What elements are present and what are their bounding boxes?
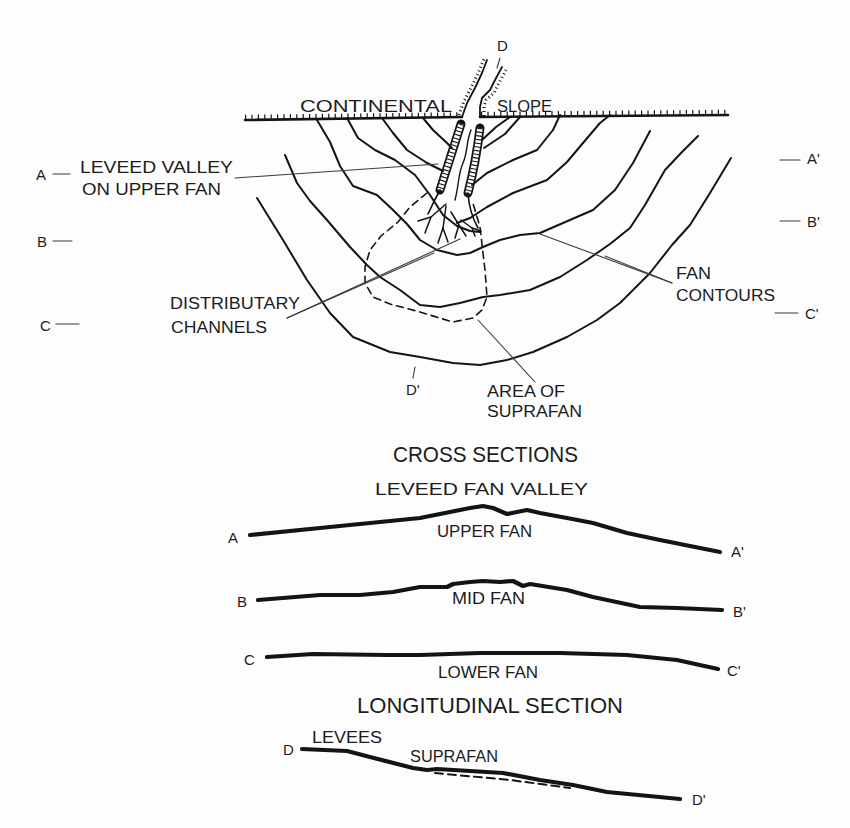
lower-fan-label: LOWER FAN [438,664,538,681]
marker-b-prime: B' [807,213,820,230]
marker-a-prime: A' [807,150,820,167]
profile-a-start: A [228,529,238,546]
leveed-valley-label-line2: ON UPPER FAN [82,181,221,198]
levees-label: LEVEES [312,729,382,746]
channel-label-d: D [497,37,508,54]
marker-b: B [37,233,47,250]
fan-contours [257,115,731,365]
cross-sections: CROSS SECTIONS LEVEED FAN VALLEY A A' UP… [228,442,746,681]
profile-b-end: B' [733,603,746,620]
slope-label-slope: SLOPE [497,98,552,115]
upper-fan-label: UPPER FAN [437,523,532,540]
cross-sections-title: CROSS SECTIONS [393,442,578,467]
mid-fan-label: MID FAN [452,590,525,607]
distributary-label-line2: CHANNELS [171,319,267,336]
suprafan-label: SUPRAFAN [410,748,498,765]
contour-innermost [317,120,650,255]
suprafan-area-label-line1: AREA OF [487,383,565,400]
profile-b-start: B [237,593,247,610]
marker-c-prime: C' [805,305,819,322]
slope-label-continental: CONTINENTAL [300,98,452,115]
plan-view: D CONTINENTAL SLOPE A B C A' B' C' LEVEE… [36,37,820,420]
fan-contours-label-line1: FAN [676,265,711,282]
marker-a: A [36,166,46,183]
longitudinal-section-title: LONGITUDINAL SECTION [357,693,623,718]
profile-c-end: C' [727,662,741,679]
suprafan-area-label-line2: SUPRAFAN [487,403,582,420]
leveed-fan-valley-label: LEVEED FAN VALLEY [375,481,588,498]
leveed-valley-label-line1: LEVEED VALLEY [80,159,233,176]
suprafan-boundary [365,193,487,322]
profile-d-start: D [283,741,294,758]
profile-d-end: D' [692,791,706,808]
distributary-channels [418,204,481,243]
marker-c: C [40,317,51,334]
section-d-tick [497,58,500,68]
contour-outermost [257,158,731,365]
fan-contours-label-line2: CONTOURS [676,287,775,304]
contour-middle [285,136,698,307]
profile-c-start: C [244,651,255,668]
diagram-canvas: D CONTINENTAL SLOPE A B C A' B' C' LEVEE… [0,0,850,828]
submarine-fan-diagram: D CONTINENTAL SLOPE A B C A' B' C' LEVEE… [0,0,850,828]
profile-a-end: A' [731,543,744,560]
section-end-label-d-prime: D' [406,381,420,398]
longitudinal-section: LONGITUDINAL SECTION D D' LEVEES SUPRAFA… [283,693,706,808]
distributary-label-line1: DISTRIBUTARY [170,295,300,312]
